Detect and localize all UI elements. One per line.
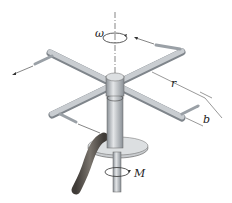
- sprinkler-diagram: ω r b M: [0, 0, 232, 203]
- r-label: r: [171, 78, 176, 89]
- sprinkler-figure: [0, 0, 232, 203]
- jet-arrows: [12, 37, 154, 133]
- m-label: M: [134, 168, 145, 179]
- b-label: b: [203, 114, 210, 125]
- omega-label: ω: [95, 28, 104, 39]
- dimension-r: [152, 72, 212, 98]
- lower-shaft: [113, 152, 121, 192]
